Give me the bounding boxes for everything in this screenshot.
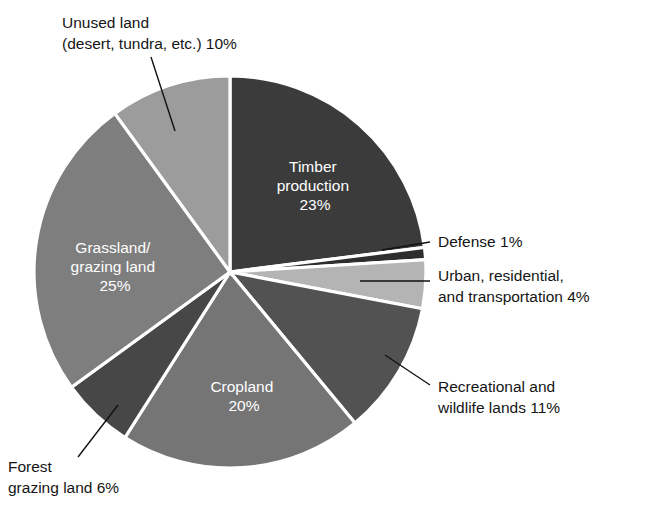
pie-chart-figure: Timber production 23% Grassland/ grazing… [0,0,661,520]
pie-chart-canvas: Timber production 23% Grassland/ grazing… [0,0,661,520]
callout-label-defense: Defense 1% [438,233,523,250]
callout-label-recreational-wildlife-lands: Recreational and wildlife lands 11% [437,378,560,416]
callout-label-forest-grazing-land: Forest grazing land 6% [8,458,119,496]
callout-label-urban-residential-transportation: Urban, residential, and transportation 4… [438,267,590,305]
callout-label-unused-land: Unused land (desert, tundra, etc.) 10% [62,14,237,52]
